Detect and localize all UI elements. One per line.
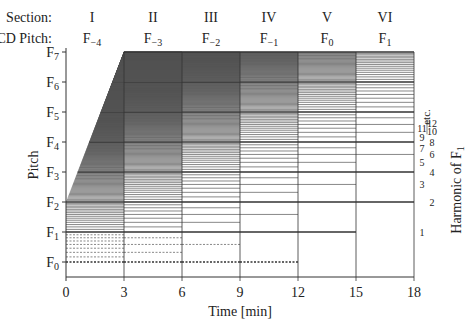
gcd-pitch-base: F — [260, 31, 268, 46]
harmonic-number: 2 — [430, 197, 435, 208]
section-numeral: I — [90, 10, 95, 25]
time-tick-label: 18 — [407, 285, 421, 300]
harmonic-number-labels: 123456789101112 — [417, 118, 437, 238]
pitch-label: F0 — [46, 255, 59, 272]
pitch-label: F3 — [46, 165, 59, 182]
gcd-pitch: F−3 — [144, 31, 162, 48]
x-axis-label: Time [min] — [208, 304, 272, 319]
pitch-label-sub: 2 — [54, 201, 59, 212]
pitch-label: F6 — [46, 75, 59, 92]
pitch-label-base: F — [46, 255, 54, 270]
harmonic-number: 6 — [430, 149, 435, 160]
pitch-label-sub: 5 — [54, 111, 59, 122]
time-tick-label: 12 — [291, 285, 305, 300]
pitch-label: F2 — [46, 195, 59, 212]
harmonic-number: 5 — [420, 157, 425, 168]
pitch-label-base: F — [46, 165, 54, 180]
gcd-pitch-base: F — [202, 31, 210, 46]
pitch-label: F7 — [46, 45, 59, 62]
pitch-label-sub: 7 — [54, 51, 59, 62]
harmonic-diagram: Section: GCD Pitch: IF−4IIF−3IIIF−2IVF−1… — [0, 0, 470, 331]
section-numeral: III — [204, 10, 218, 25]
pitch-label-sub: 6 — [54, 81, 59, 92]
section-numeral: IV — [262, 10, 277, 25]
pitch-label: F1 — [46, 225, 59, 242]
pitch-tick-labels: F0F1F2F3F4F5F6F7 — [46, 45, 59, 272]
gcd-pitch-base: F — [379, 31, 387, 46]
gcd-pitch-sub: −4 — [91, 37, 102, 48]
harmonic-number: 1 — [420, 227, 425, 238]
pitch-label: F5 — [46, 105, 59, 122]
pitch-label-base: F — [46, 105, 54, 120]
gcd-pitch: F−4 — [83, 31, 101, 48]
time-tick-label: 15 — [349, 285, 363, 300]
gcd-pitch-base: F — [83, 31, 91, 46]
section-headers: IF−4IIF−3IIIF−2IVF−1VF0VIF1 — [83, 10, 393, 48]
time-tick-label: 6 — [179, 285, 186, 300]
gcd-pitch-sub: 1 — [386, 37, 391, 48]
section-numeral: V — [322, 10, 332, 25]
gcd-pitch-sub: 0 — [328, 37, 333, 48]
gcd-row-label: GCD Pitch: — [0, 31, 52, 46]
time-tick-label: 0 — [63, 285, 70, 300]
time-tick-labels: 0369121518 — [63, 285, 422, 300]
pitch-label-base: F — [46, 45, 54, 60]
pitch-label-base: F — [46, 195, 54, 210]
gcd-pitch-base: F — [321, 31, 329, 46]
time-tick-label: 9 — [237, 285, 244, 300]
gcd-pitch: F0 — [321, 31, 334, 48]
gcd-pitch-sub: −3 — [152, 37, 163, 48]
harmonic-number: 7 — [420, 143, 425, 154]
gcd-pitch: F1 — [379, 31, 392, 48]
pitch-label-sub: 0 — [54, 261, 59, 272]
gcd-pitch: F−1 — [260, 31, 278, 48]
section-row-label: Section: — [6, 10, 52, 25]
etc-label: etc. — [420, 109, 432, 125]
pitch-label-sub: 3 — [54, 171, 59, 182]
pitch-label-sub: 1 — [54, 231, 59, 242]
pitch-label-sub: 4 — [54, 141, 59, 152]
section-numeral: II — [148, 10, 158, 25]
harmonic-number: 4 — [430, 167, 435, 178]
right-axis-label: Harmonic of F1 — [449, 146, 466, 233]
pitch-label-base: F — [46, 225, 54, 240]
gcd-pitch-base: F — [144, 31, 152, 46]
gcd-pitch-sub: −2 — [210, 37, 221, 48]
harmonic-number: 3 — [420, 179, 425, 190]
time-tick-label: 3 — [121, 285, 128, 300]
gcd-pitch-sub: −1 — [268, 37, 279, 48]
pitch-label-base: F — [46, 135, 54, 150]
gcd-pitch: F−2 — [202, 31, 220, 48]
y-axis-label: Pitch — [26, 151, 41, 180]
harmonic-number: 8 — [430, 137, 435, 148]
section-numeral: VI — [378, 10, 393, 25]
pitch-label: F4 — [46, 135, 59, 152]
pitch-label-base: F — [46, 75, 54, 90]
